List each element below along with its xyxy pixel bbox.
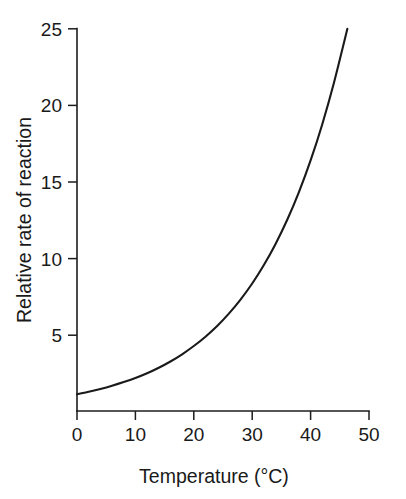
x-tick-label-10: 10 [125, 424, 146, 445]
y-tick-label-5: 5 [51, 325, 62, 346]
y-tick-label-25: 25 [41, 19, 62, 40]
y-axis-title: Relative rate of reaction [13, 117, 35, 323]
x-tick-label-30: 30 [242, 424, 263, 445]
x-tick-label-20: 20 [183, 424, 204, 445]
x-tick-label-50: 50 [358, 424, 379, 445]
chart-canvas: 5 10 15 20 25 0 10 20 30 40 50 Temperatu… [0, 0, 406, 499]
y-tick-label-20: 20 [41, 95, 62, 116]
x-tick-label-0: 0 [72, 424, 83, 445]
x-tick-label-40: 40 [300, 424, 321, 445]
x-axis-title: Temperature (°C) [139, 465, 289, 487]
y-tick-label-15: 15 [41, 172, 62, 193]
y-tick-label-10: 10 [41, 249, 62, 270]
